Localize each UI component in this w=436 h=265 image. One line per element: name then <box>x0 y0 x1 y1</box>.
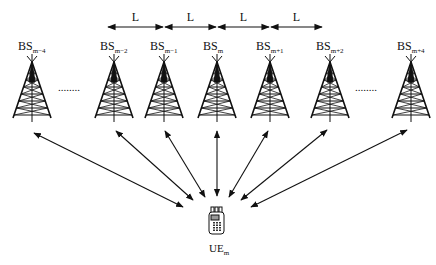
base-station-label: BSm+4 <box>397 39 425 55</box>
network-diagram: LLLL BSm−4BSm−2BSm−1BSmBSm+1BSm+2BSm+4 U… <box>0 0 436 265</box>
link-arrow-bs-m+1 <box>229 131 268 197</box>
base-station-bs-m+2: BSm+2 <box>311 39 349 122</box>
spacing-arrow: L <box>108 10 163 27</box>
link-arrow-bs-m-1 <box>165 131 205 197</box>
cell-tower-icon <box>13 54 51 122</box>
ue-label: UEm <box>209 242 230 257</box>
cell-tower-icon <box>95 54 133 122</box>
mobile-phone-icon <box>209 207 224 234</box>
base-station-bs-m: BSm <box>198 39 236 122</box>
base-station-label: BSm <box>203 39 224 55</box>
spacing-arrow: L <box>218 10 269 27</box>
cell-tower-icon <box>251 54 289 122</box>
spacing-label: L <box>293 10 300 24</box>
base-station-label: BSm+1 <box>256 39 284 55</box>
cell-tower-icon <box>311 54 349 122</box>
base-station-label: BSm+2 <box>316 39 344 55</box>
spacing-arrow: L <box>271 10 322 27</box>
spacing-label: L <box>132 10 139 24</box>
base-station-bs-m-1: BSm−1 <box>145 39 183 122</box>
link-arrow-bs-m-2 <box>116 131 193 200</box>
base-station-bs-m-4: BSm−4 <box>13 39 51 122</box>
base-station-bs-m+1: BSm+1 <box>251 39 289 122</box>
cell-tower-icon <box>198 54 236 122</box>
link-arrow-bs-m-4 <box>34 133 183 207</box>
links <box>34 130 407 207</box>
base-station-label: BSm−1 <box>150 39 178 55</box>
base-station-bs-m-2: BSm−2 <box>95 39 133 122</box>
base-station-bs-m+4: BSm+4 <box>392 39 430 122</box>
link-arrow-bs-m+4 <box>251 130 407 207</box>
spacing-arrow: L <box>165 10 216 27</box>
spacing-label: L <box>240 10 247 24</box>
link-arrow-bs-m+2 <box>241 130 327 200</box>
spacing-arrows: LLLL <box>108 10 322 27</box>
spacing-label: L <box>187 10 194 24</box>
cell-tower-icon <box>392 54 430 122</box>
base-station-label: BSm−2 <box>100 39 128 55</box>
ellipsis: ........ <box>355 81 377 93</box>
ellipsis: ........ <box>58 81 80 93</box>
base-station-label: BSm−4 <box>18 39 46 55</box>
user-equipment: UEm <box>209 207 230 257</box>
cell-tower-icon <box>145 54 183 122</box>
